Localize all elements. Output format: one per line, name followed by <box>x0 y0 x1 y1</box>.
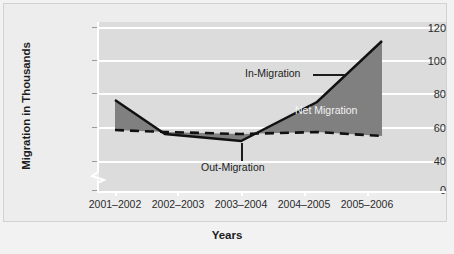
y-tick-mark-80 <box>92 93 97 94</box>
y-tick-label-80: 80 <box>406 88 446 100</box>
x-tick-label-2005-2006: 2005–2006 <box>335 198 399 210</box>
y-tick-mark-0 <box>92 190 97 191</box>
out-migration-leader-line <box>241 143 243 161</box>
y-axis-break-icon <box>90 167 106 183</box>
y-tick-label-60: 60 <box>406 122 446 134</box>
x-axis-title: Years <box>0 229 454 241</box>
chart-frame: Migration in Thousands 120 100 80 60 40 … <box>3 3 447 222</box>
migration-area-chart <box>99 22 446 191</box>
x-axis-line <box>99 191 446 193</box>
y-tick-label-120: 120 <box>406 22 446 34</box>
x-tick-label-2004-2005: 2004–2005 <box>272 198 336 210</box>
y-tick-mark-60 <box>92 127 97 128</box>
net-migration-annotation: Net Migration <box>295 104 357 116</box>
plot-area <box>99 22 446 191</box>
y-axis-line <box>97 22 99 172</box>
y-tick-label-0: 0 <box>406 184 446 196</box>
y-tick-label-40: 40 <box>406 155 446 167</box>
x-tick-mark-4 <box>304 191 306 196</box>
out-migration-annotation: Out-Migration <box>201 161 265 173</box>
x-tick-mark-1 <box>115 191 117 196</box>
y-tick-mark-40 <box>92 161 97 162</box>
in-migration-annotation: In-Migration <box>245 67 300 79</box>
y-axis-title: Migration in Thousands <box>20 26 32 186</box>
y-tick-label-100: 100 <box>406 55 446 67</box>
in-migration-leader-line <box>313 74 345 76</box>
x-tick-mark-5 <box>367 191 369 196</box>
y-tick-mark-120 <box>92 27 97 28</box>
x-tick-label-2002-2003: 2002–2003 <box>146 198 210 210</box>
y-tick-mark-100 <box>92 60 97 61</box>
x-tick-mark-3 <box>241 191 243 196</box>
x-tick-label-2001-2002: 2001–2002 <box>83 198 147 210</box>
x-tick-label-2003-2004: 2003–2004 <box>209 198 273 210</box>
x-tick-mark-2 <box>177 191 179 196</box>
